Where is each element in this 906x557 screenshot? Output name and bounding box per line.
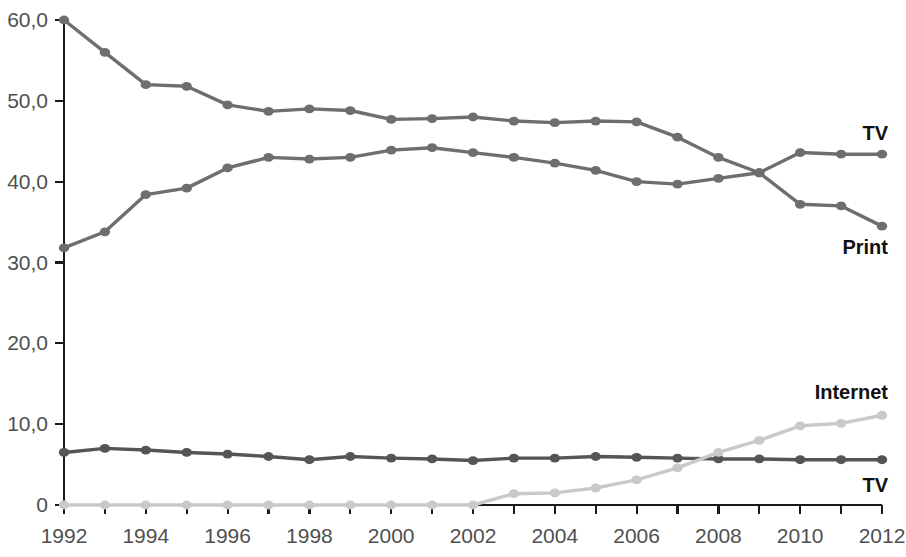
x-tick-label: 1994 xyxy=(122,524,169,547)
series-label-print: Print xyxy=(842,236,888,258)
data-point xyxy=(141,190,151,199)
data-point xyxy=(877,222,887,231)
y-axis-ticks xyxy=(55,20,64,505)
data-point xyxy=(509,153,519,162)
y-tick-label: 10,0 xyxy=(7,412,48,435)
data-point xyxy=(836,455,846,464)
data-point xyxy=(795,200,805,209)
data-point xyxy=(263,107,273,116)
data-point xyxy=(345,106,355,115)
data-point xyxy=(304,501,314,510)
data-point xyxy=(100,444,110,453)
data-point xyxy=(386,115,396,124)
data-point xyxy=(345,153,355,162)
x-tick-label: 2008 xyxy=(695,524,742,547)
x-tick-label: 2002 xyxy=(450,524,497,547)
data-point xyxy=(141,501,151,510)
line-chart-svg: 010,020,030,040,050,060,0 19921994199619… xyxy=(0,0,906,557)
data-point xyxy=(222,450,232,459)
data-point xyxy=(836,150,846,159)
data-point xyxy=(386,454,396,463)
data-point xyxy=(509,489,519,498)
x-tick-label: 1992 xyxy=(41,524,88,547)
x-tick-label: 2000 xyxy=(368,524,415,547)
data-point xyxy=(713,153,723,162)
data-point xyxy=(304,455,314,464)
y-tick-label: 20,0 xyxy=(7,331,48,354)
data-point xyxy=(591,484,601,493)
data-point xyxy=(672,133,682,142)
data-point xyxy=(713,448,723,457)
data-point xyxy=(550,454,560,463)
data-point xyxy=(59,244,69,253)
data-point xyxy=(141,446,151,455)
y-axis-labels: 010,020,030,040,050,060,0 xyxy=(7,8,48,516)
data-point xyxy=(550,118,560,127)
series-label-internet: Internet xyxy=(815,381,889,403)
series-line-print xyxy=(64,20,882,226)
series-line-tv xyxy=(64,148,882,248)
data-point xyxy=(100,48,110,57)
y-tick-label: 0 xyxy=(36,493,48,516)
series-inline-labels: PrintTVInternetTV xyxy=(815,122,889,496)
data-point xyxy=(591,166,601,175)
series-label-tv: TV xyxy=(862,122,888,144)
data-point xyxy=(263,501,273,510)
data-point xyxy=(386,501,396,510)
x-tick-label: 2012 xyxy=(859,524,906,547)
data-point xyxy=(141,80,151,89)
data-point xyxy=(754,436,764,445)
data-point xyxy=(100,501,110,510)
data-point xyxy=(795,148,805,157)
data-point xyxy=(836,202,846,211)
x-tick-label: 1996 xyxy=(204,524,251,547)
data-point xyxy=(754,168,764,177)
data-point xyxy=(468,148,478,157)
data-point xyxy=(182,184,192,193)
data-point xyxy=(59,16,69,25)
data-point xyxy=(877,150,887,159)
data-point xyxy=(427,143,437,152)
y-tick-label: 60,0 xyxy=(7,8,48,31)
data-point xyxy=(304,155,314,164)
data-point xyxy=(591,117,601,126)
chart-container: 010,020,030,040,050,060,0 19921994199619… xyxy=(0,0,906,557)
data-point xyxy=(182,82,192,91)
data-point xyxy=(631,453,641,462)
data-point xyxy=(59,501,69,510)
x-tick-label: 2010 xyxy=(777,524,824,547)
data-point xyxy=(631,117,641,126)
data-point xyxy=(795,421,805,430)
data-point xyxy=(509,454,519,463)
data-point xyxy=(345,452,355,461)
data-point xyxy=(754,455,764,464)
data-point xyxy=(182,501,192,510)
data-point xyxy=(427,114,437,123)
data-point xyxy=(468,456,478,465)
data-point xyxy=(345,501,355,510)
series-label-tv-second-: TV xyxy=(862,474,888,496)
data-point xyxy=(182,448,192,457)
data-point xyxy=(304,105,314,114)
y-tick-label: 40,0 xyxy=(7,170,48,193)
data-point xyxy=(631,177,641,186)
data-point xyxy=(468,501,478,510)
data-point xyxy=(713,174,723,183)
x-tick-label: 2006 xyxy=(613,524,660,547)
data-point xyxy=(550,488,560,497)
x-tick-label: 2004 xyxy=(531,524,578,547)
data-point xyxy=(672,454,682,463)
data-point xyxy=(877,455,887,464)
data-point xyxy=(100,227,110,236)
data-point xyxy=(263,452,273,461)
data-point xyxy=(59,448,69,457)
data-point xyxy=(672,180,682,189)
y-tick-label: 30,0 xyxy=(7,251,48,274)
data-point xyxy=(263,153,273,162)
data-point xyxy=(550,159,560,168)
data-point xyxy=(877,411,887,420)
data-point xyxy=(795,455,805,464)
data-point xyxy=(672,463,682,472)
data-point xyxy=(509,117,519,126)
y-tick-label: 50,0 xyxy=(7,89,48,112)
